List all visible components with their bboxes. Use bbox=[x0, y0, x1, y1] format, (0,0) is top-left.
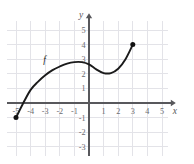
x-tick-label: -3 bbox=[42, 107, 49, 116]
graph-canvas: -5-4-3-2-11234554321-1-2-3 fxy bbox=[0, 0, 194, 164]
y-tick-label: 1 bbox=[81, 84, 85, 93]
axes-layer bbox=[7, 13, 176, 155]
curve-label-f: f bbox=[43, 55, 47, 65]
x-tick-label: -2 bbox=[56, 107, 63, 116]
graph-figure: -5-4-3-2-11234554321-1-2-3 fxy bbox=[0, 0, 194, 164]
axis-names-layer: fxy bbox=[43, 10, 178, 116]
y-tick-label: -1 bbox=[79, 114, 86, 123]
x-tick-label: 3 bbox=[131, 107, 135, 116]
y-tick-label: 2 bbox=[81, 70, 85, 79]
left-endpoint bbox=[14, 115, 19, 120]
x-axis-name: x bbox=[172, 106, 178, 116]
y-axis-name: y bbox=[78, 10, 84, 20]
y-tick-label: -2 bbox=[79, 128, 86, 137]
x-tick-label: 4 bbox=[145, 107, 149, 116]
y-tick-label: 5 bbox=[81, 26, 85, 35]
y-axis-arrowhead bbox=[86, 13, 92, 18]
x-tick-label: -1 bbox=[71, 107, 78, 116]
y-tick-label: -3 bbox=[79, 143, 86, 152]
x-tick-label: -4 bbox=[27, 107, 34, 116]
x-tick-label: 5 bbox=[160, 107, 164, 116]
right-endpoint bbox=[130, 42, 135, 47]
y-tick-label: 4 bbox=[81, 41, 85, 50]
x-tick-label: 2 bbox=[116, 107, 120, 116]
x-tick-label: 1 bbox=[102, 107, 106, 116]
